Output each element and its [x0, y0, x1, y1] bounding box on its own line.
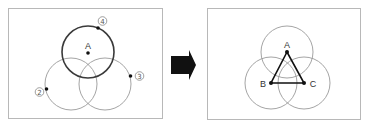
marker-3-label: 3 [137, 73, 141, 81]
point-c-dot [302, 81, 306, 85]
point-c-label: C [310, 79, 317, 89]
diagram-canvas: A 4 3 2 A B C [0, 0, 367, 127]
point-b-dot [269, 81, 273, 85]
marker-4-label: 4 [100, 18, 105, 26]
point-b-label: B [260, 79, 266, 89]
marker-2-dot [45, 87, 49, 91]
right-frame [208, 9, 361, 120]
marker-2-label: 2 [37, 89, 41, 97]
point-a-dot [86, 51, 90, 55]
left-panel: A 4 3 2 [9, 9, 163, 119]
point-a-label: A [284, 40, 290, 50]
right-panel: A B C [208, 9, 361, 120]
right-arrow-icon [171, 50, 196, 80]
marker-4-dot [96, 26, 100, 30]
point-a-dot [285, 50, 289, 54]
marker-3-dot [129, 74, 133, 78]
left-frame [9, 9, 163, 119]
point-a-label: A [85, 41, 91, 51]
